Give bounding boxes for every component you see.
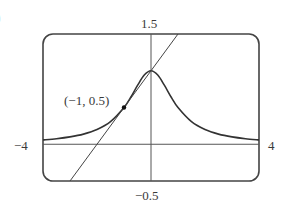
point-annotation: (−1, 0.5)	[64, 94, 109, 107]
tangent-point-marker	[122, 105, 126, 109]
y-min-label: −0.5	[135, 189, 159, 202]
plot-area	[0, 0, 283, 217]
y-max-label: 1.5	[141, 17, 157, 30]
x-max-label: 4	[268, 139, 275, 152]
x-min-label: −4	[14, 139, 28, 152]
